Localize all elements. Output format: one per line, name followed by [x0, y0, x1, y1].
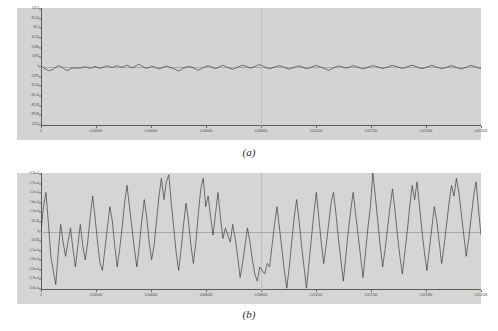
plot-a-y-tick-label: -99.69 [31, 114, 39, 117]
plot-a-y-tick-label: 113.4 [32, 7, 39, 10]
plot-b-y-tick-label: -1.1e+4 [29, 249, 39, 252]
plot-b-x-tick-label: 0.008000 [255, 294, 268, 297]
plot-a: 113.485.0556.731.152.6851.8750-1.875-31.… [17, 8, 481, 140]
plot-b-y-tick-label: 1.6e+4 [30, 201, 39, 204]
plot-a-x-axis-labels: 00.0020000.0040000.0060000.0080000.01150… [41, 126, 481, 140]
plot-a-x-tick-mark [151, 126, 152, 128]
plot-b-x-tick-label: 0.006000 [200, 294, 213, 297]
caption-b: (b) [0, 308, 498, 320]
plot-a-x-tick-label: 0.008000 [255, 130, 268, 133]
plot-b-y-tick-label: 2.2e+4 [30, 192, 39, 195]
plot-a-y-tick-label: -56.14 [31, 94, 39, 97]
plot-b-x-tick-mark [41, 290, 42, 292]
plot-a-x-tick-label: 0.017200 [365, 130, 378, 133]
plot-a-x-tick-mark [41, 126, 42, 128]
plot-b-y-tick-label: 54.26 [32, 220, 40, 223]
plot-b-x-tick-label: 0.011500 [310, 294, 322, 297]
plot-a-series-line [41, 8, 481, 126]
plot-b-y-tick-label: -2.7e+4 [29, 278, 39, 281]
plot-b-x-axis-labels: 00.0020000.0040000.0060000.0080000.01150… [41, 290, 481, 304]
plot-b-x-tick-label: 0.017400 [420, 294, 433, 297]
plot-b-x-tick-mark [426, 290, 427, 292]
plot-b-x-tick-mark [96, 290, 97, 292]
plot-b-x-tick-mark [206, 290, 207, 292]
plot-b-x-tick-label: 0.004000 [145, 294, 158, 297]
plot-b-series-line [41, 173, 481, 290]
plot-b-y-tick-label: -2.2e+4 [29, 268, 39, 271]
plot-a-x-tick-mark [316, 126, 317, 128]
plot-a-y-tick-label: 2.685 [32, 46, 40, 49]
plot-a-x-tick-mark [261, 126, 262, 128]
plot-b-y-tick-label: -3.3e+4 [29, 287, 39, 290]
plot-a-x-tick-mark [371, 126, 372, 128]
plot-a-y-axis-labels: 113.485.0556.731.152.6851.8750-1.875-31.… [17, 8, 41, 126]
plot-a-x-tick-label: 0.011508 [475, 130, 487, 133]
plot-a-x-tick-mark [481, 126, 482, 128]
plot-a-y-tick-label: -1.875 [31, 75, 39, 78]
plot-a-y-tick-label: 85.05 [32, 17, 40, 20]
plot-a-x-tick-mark [96, 126, 97, 128]
plot-a-x-tick-label: 0 [40, 130, 42, 133]
plot-b-x-tick-label: 0 [40, 294, 42, 297]
plot-b-y-axis-labels: 3.3e+42.7e+42.2e+41.6e+41.1e+454.260-54.… [17, 173, 41, 290]
plot-b-x-tick-label: 0.017200 [365, 294, 378, 297]
plot-b-y-tick-label: 1.1e+4 [30, 211, 39, 214]
plot-a-y-tick-label: 31.15 [32, 36, 40, 39]
plot-a-x-tick-label: 0.017400 [420, 130, 433, 133]
plot-a-data-area [41, 8, 481, 126]
plot-b-x-tick-mark [261, 290, 262, 292]
plot-a-y-tick-label: -85.93 [31, 104, 39, 107]
plot-a-x-tick-mark [426, 126, 427, 128]
plot-b-y-tick-label: -54.26 [31, 240, 39, 243]
plot-a-y-tick-label: -31.44 [31, 85, 39, 88]
plot-b-x-tick-label: 0.002000 [90, 294, 103, 297]
plot-a-x-tick-mark [206, 126, 207, 128]
plot-a-x-tick-label: 0.011500 [310, 130, 322, 133]
plot-b-x-tick-label: 0.011508 [475, 294, 487, 297]
plot-a-y-tick-label: 1.875 [32, 56, 40, 59]
plot-a-x-tick-label: 0.002000 [90, 130, 103, 133]
subfigure-a: 113.485.0556.731.152.6851.8750-1.875-31.… [0, 0, 498, 168]
plot-a-x-tick-label: 0.004000 [145, 130, 158, 133]
plot-a-x-tick-label: 0.006000 [200, 130, 213, 133]
plot-b-data-area [41, 173, 481, 290]
figure-two-panel-noise-plots: 113.485.0556.731.152.6851.8750-1.875-31.… [0, 0, 498, 331]
plot-b-x-tick-mark [481, 290, 482, 292]
plot-b-x-tick-mark [151, 290, 152, 292]
plot-a-y-tick-label: -113.4 [31, 123, 39, 126]
plot-b-y-tick-label: 2.7e+4 [30, 182, 39, 185]
caption-a: (a) [0, 146, 498, 158]
plot-b-x-tick-mark [371, 290, 372, 292]
subfigure-b: 3.3e+42.7e+42.2e+41.6e+41.1e+454.260-54.… [0, 168, 498, 331]
plot-b-y-tick-label: -1.6e+4 [29, 259, 39, 262]
plot-b: 3.3e+42.7e+42.2e+41.6e+41.1e+454.260-54.… [17, 173, 481, 304]
plot-b-y-tick-label: 3.3e+4 [30, 172, 39, 175]
plot-b-x-tick-mark [316, 290, 317, 292]
